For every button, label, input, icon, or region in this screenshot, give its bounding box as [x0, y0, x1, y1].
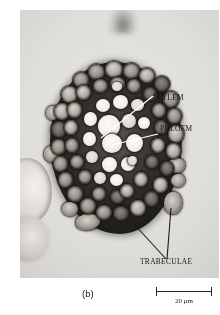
scale-bar-cap-right: [211, 287, 212, 296]
scale-bar-label: 20 μm: [154, 297, 214, 305]
label-xylem: XYLEM: [156, 93, 184, 102]
plate-vignette: [20, 10, 219, 278]
scale-bar-line: [156, 291, 212, 292]
label-phloem: PHLOEM: [160, 124, 193, 133]
micrograph-image: [20, 10, 219, 278]
label-trabeculae: TRABECULAE: [140, 257, 192, 266]
scale-bar-cap-left: [156, 287, 157, 296]
scale-bar: 20 μm: [154, 286, 214, 308]
figure-caption: (b): [82, 288, 94, 299]
figure-panel: XYLEM PHLOEM TRABECULAE (b) 20 μm: [0, 0, 220, 315]
